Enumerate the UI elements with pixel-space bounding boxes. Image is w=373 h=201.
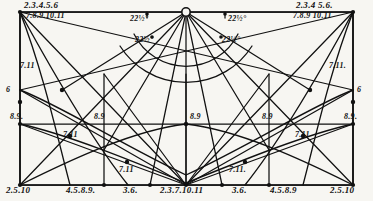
label-inner-right-7-11: 7.11.: [229, 166, 246, 174]
label-angle-left-inner: 22½°: [135, 36, 153, 44]
label-bottom-center-right: 3.6.: [232, 186, 247, 195]
label-mid-center-8-9: 8.9: [190, 113, 201, 121]
node-angle-right-outer: [223, 12, 227, 16]
label-mid-center-left-8-9: 8.9: [94, 113, 105, 121]
node-right-6: [351, 100, 355, 104]
label-angle-left-outer: 22½°: [130, 15, 148, 23]
label-right-7-11: 7.11.: [329, 62, 346, 70]
node-apex: [182, 8, 190, 16]
label-top-left-upper: 2.3.4.5.6: [24, 1, 58, 10]
label-angle-right-inner: 22½°: [222, 36, 240, 44]
apex-ray-8: [186, 12, 222, 185]
label-left-7-11: 7.11: [20, 62, 35, 70]
label-bottom-center-left: 3.6.: [123, 186, 138, 195]
label-top-right-lower: 7.8.9 10.11: [293, 12, 332, 20]
label-top-left-lower: 7.8.9.10.11: [26, 12, 65, 20]
label-bottom-center: 2.3.7.10.11: [160, 186, 203, 195]
label-top-right-upper: 2.3.4 5.6.: [296, 1, 333, 10]
node-bottom-center-right: [220, 183, 224, 187]
node-left-6: [18, 100, 22, 104]
label-bottom-right: 2.5.10: [330, 186, 354, 195]
diagram-page: 2.3.4.5.6 7.8.9.10.11 2.3.4 5.6. 7.8.9 1…: [0, 0, 373, 201]
label-mid-left-8-9: 8.9.: [10, 113, 23, 121]
label-left-6: 6: [6, 86, 10, 94]
node-bottom-center-left: [148, 183, 152, 187]
construction-drawing: [0, 0, 373, 201]
node-left-7-11: [60, 88, 64, 92]
node-top-right: [351, 10, 355, 14]
label-bottom-left-mid: 4.5.8.9.: [66, 186, 95, 195]
label-inner-left-7-11: 7.11: [119, 166, 134, 174]
label-bottom-right-mid: 4.5.8.9: [270, 186, 297, 195]
label-lower-left-7-11: 7.11: [63, 131, 78, 139]
label-mid-right-8-9: 8.9.: [344, 113, 357, 121]
label-angle-right-outer: 22½°: [228, 15, 246, 23]
node-inner-right-7-11: [243, 160, 247, 164]
base-ray-5: [20, 90, 186, 185]
node-right-7-11: [308, 88, 312, 92]
node-mid-center-8-9: [184, 122, 188, 126]
label-right-6: 6: [357, 86, 361, 94]
label-bottom-left: 2.5.10: [6, 186, 30, 195]
node-top-left: [18, 10, 22, 14]
label-mid-right-inner-8-9: 8.9: [262, 113, 273, 121]
node-inner-left-7-11: [125, 160, 129, 164]
node-mid-left-8-9: [18, 122, 22, 126]
node-bottom-left-mid: [102, 183, 106, 187]
label-lower-right-7-11: 7.11: [295, 131, 310, 139]
node-mid-right-8-9: [351, 122, 355, 126]
